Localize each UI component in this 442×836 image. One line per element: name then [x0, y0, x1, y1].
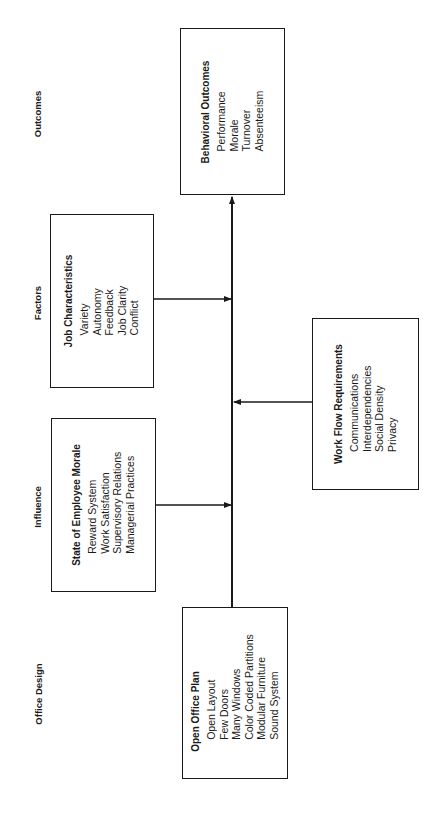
column-label-factors: Factors	[32, 286, 43, 320]
box-item: Open Layout	[205, 634, 218, 752]
box-state-of-employee-morale: State of Employee Morale Reward System W…	[51, 418, 156, 592]
box-item: Many Windows	[230, 634, 243, 752]
box-item: Reward System	[86, 444, 99, 566]
box-job-characteristics: Job Characteristics Variety Autonomy Fee…	[50, 214, 154, 388]
box-item: Variety	[78, 255, 91, 348]
box-content: State of Employee Morale Reward System W…	[71, 444, 136, 566]
column-label-outcomes: Outcomes	[32, 91, 43, 137]
box-item: Privacy	[386, 344, 399, 464]
box-item: Autonomy	[91, 255, 104, 348]
box-content: Open Office Plan Open Layout Few Doors M…	[190, 634, 281, 752]
box-content: Behavioral Outcomes Performance Morale T…	[200, 60, 265, 163]
box-title: Open Office Plan	[190, 634, 201, 752]
box-item: Communications	[348, 344, 361, 464]
box-item: Supervisory Relations	[111, 444, 124, 566]
box-title: Behavioral Outcomes	[200, 60, 211, 163]
box-title: Job Characteristics	[63, 255, 74, 348]
box-item: Modular Furniture	[255, 634, 268, 752]
column-label-office-design: Office Design	[33, 663, 44, 724]
box-item: Work Satisfaction	[98, 444, 111, 566]
box-open-office-plan: Open Office Plan Open Layout Few Doors M…	[182, 607, 288, 779]
box-item: Conflict	[128, 255, 141, 348]
box-item: Feedback	[103, 255, 116, 348]
box-item: Interdependencies	[360, 344, 373, 464]
diagram-canvas: Outcomes Factors Influence Office Design…	[0, 0, 442, 836]
box-item: Absenteeism	[253, 60, 266, 163]
box-item: Sound System	[268, 634, 281, 752]
box-item: Managerial Practices	[124, 444, 137, 566]
box-item: Job Clarity	[116, 255, 129, 348]
box-item: Turnover	[240, 60, 253, 163]
column-label-influence: Influence	[32, 486, 43, 528]
box-item: Color Coded Partitions	[243, 634, 256, 752]
box-title: State of Employee Morale	[71, 444, 82, 566]
box-behavioral-outcomes: Behavioral Outcomes Performance Morale T…	[180, 28, 285, 195]
box-content: Work Flow Requirements Communications In…	[333, 344, 398, 464]
box-work-flow-requirements: Work Flow Requirements Communications In…	[312, 318, 419, 490]
box-item: Few Doors	[217, 634, 230, 752]
box-content: Job Characteristics Variety Autonomy Fee…	[63, 255, 141, 348]
box-item: Morale	[227, 60, 240, 163]
box-item: Performance	[215, 60, 228, 163]
box-item: Social Density	[373, 344, 386, 464]
box-title: Work Flow Requirements	[333, 344, 344, 464]
